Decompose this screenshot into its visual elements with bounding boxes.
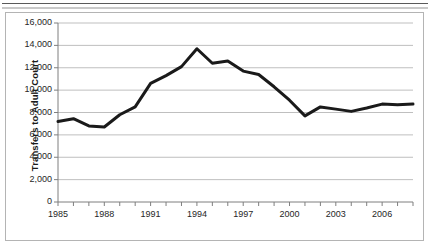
caption-divider-rule-secondary bbox=[2, 7, 428, 9]
y-axis-tick-label: 10,000 bbox=[8, 84, 52, 94]
x-axis-tick-label: 1991 bbox=[131, 209, 171, 219]
y-axis-tick-label: 14,000 bbox=[8, 39, 52, 49]
y-axis-tick-marks bbox=[54, 23, 58, 202]
gridlines bbox=[58, 23, 413, 180]
y-axis-tick-label: 0 bbox=[8, 196, 52, 206]
data-series-line bbox=[58, 49, 413, 127]
y-axis-tick-label: 16,000 bbox=[8, 17, 52, 27]
y-axis-tick-label: 8,000 bbox=[8, 107, 52, 117]
y-axis-tick-label: 4,000 bbox=[8, 151, 52, 161]
line-chart-plot bbox=[6, 13, 423, 240]
x-axis-tick-label: 2006 bbox=[362, 209, 402, 219]
y-axis-tick-label: 6,000 bbox=[8, 129, 52, 139]
y-axis-tick-label: 12,000 bbox=[8, 62, 52, 72]
x-axis-tick-label: 1985 bbox=[38, 209, 78, 219]
y-axis-tick-label: 2,000 bbox=[8, 174, 52, 184]
chart-frame: Transfers to Adult Court 02,0004,0006,00… bbox=[5, 12, 424, 241]
x-axis-tick-label: 1994 bbox=[177, 209, 217, 219]
x-axis-tick-label: 2000 bbox=[270, 209, 310, 219]
x-axis-tick-label: 1988 bbox=[84, 209, 124, 219]
x-axis-tick-label: 2003 bbox=[316, 209, 356, 219]
x-axis-tick-label: 1997 bbox=[223, 209, 263, 219]
figure-container: Transfers to Adult Court 02,0004,0006,00… bbox=[0, 0, 430, 247]
caption-divider-rule bbox=[2, 3, 428, 4]
x-axis-tick-marks bbox=[58, 202, 413, 206]
